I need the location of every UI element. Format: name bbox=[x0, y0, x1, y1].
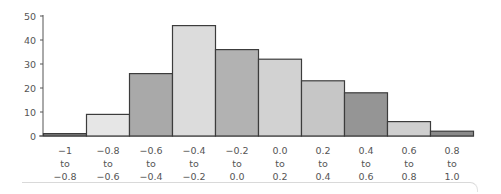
histogram-bar bbox=[259, 59, 302, 136]
y-tick-label: 30 bbox=[24, 59, 36, 70]
x-tick-label: 0.8 bbox=[401, 171, 416, 182]
x-tick-label: −0.4 bbox=[139, 171, 162, 182]
x-tick-label: −0.2 bbox=[225, 145, 248, 156]
x-tick-label: −0.8 bbox=[96, 145, 119, 156]
x-tick-label: 0.0 bbox=[272, 145, 287, 156]
y-tick-label: 50 bbox=[24, 11, 36, 22]
x-tick-label: −1 bbox=[58, 145, 72, 156]
x-tick-label: to bbox=[232, 158, 242, 169]
histogram-bar bbox=[130, 74, 173, 136]
histogram-bar bbox=[44, 134, 87, 136]
x-tick-label: to bbox=[103, 158, 113, 169]
x-tick-label: −0.6 bbox=[96, 171, 119, 182]
histogram-chart: 01020304050 −1to−0.8−0.8to−0.6−0.6to−0.4… bbox=[0, 0, 501, 194]
histogram-bar bbox=[302, 81, 345, 136]
histogram-bar bbox=[216, 50, 259, 136]
x-tick-label: 1.0 bbox=[444, 171, 459, 182]
histogram-bar bbox=[345, 93, 388, 136]
bars bbox=[44, 26, 474, 136]
x-tick-label: to bbox=[404, 158, 414, 169]
x-tick-label: to bbox=[318, 158, 328, 169]
histogram-bar bbox=[431, 131, 474, 136]
x-tick-label: −0.8 bbox=[53, 171, 76, 182]
x-tick-label: 0.8 bbox=[444, 145, 459, 156]
x-tick-label: −0.4 bbox=[182, 145, 205, 156]
x-tick-label: to bbox=[275, 158, 285, 169]
x-tick-label: 0.2 bbox=[272, 171, 287, 182]
x-tick-label: to bbox=[60, 158, 70, 169]
x-tick-label: to bbox=[189, 158, 199, 169]
histogram-bar bbox=[388, 122, 431, 136]
x-tick-label: 0.0 bbox=[229, 171, 244, 182]
x-tick-label: 0.4 bbox=[315, 171, 330, 182]
x-tick-label: to bbox=[146, 158, 156, 169]
x-tick-label: 0.4 bbox=[358, 145, 373, 156]
x-tick-label: to bbox=[361, 158, 371, 169]
bottom-divider bbox=[22, 182, 478, 192]
y-tick-label: 10 bbox=[24, 107, 36, 118]
y-tick-label: 40 bbox=[24, 35, 36, 46]
histogram-bar bbox=[87, 114, 130, 136]
x-tick-label: 0.6 bbox=[401, 145, 416, 156]
y-tick-label: 20 bbox=[24, 83, 36, 94]
y-tick-label: 0 bbox=[30, 131, 36, 142]
x-axis-labels: −1to−0.8−0.8to−0.6−0.6to−0.4−0.4to−0.2−0… bbox=[53, 145, 459, 182]
histogram-bar bbox=[173, 26, 216, 136]
x-tick-label: −0.6 bbox=[139, 145, 162, 156]
x-tick-label: to bbox=[447, 158, 457, 169]
x-tick-label: −0.2 bbox=[182, 171, 205, 182]
x-tick-label: 0.2 bbox=[315, 145, 330, 156]
x-tick-label: 0.6 bbox=[358, 171, 373, 182]
